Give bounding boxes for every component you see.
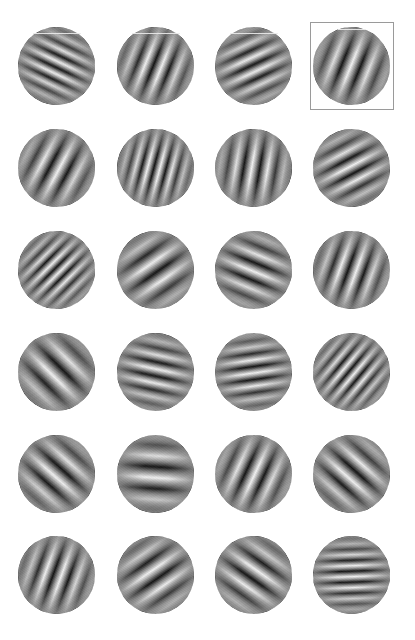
gabor-image	[18, 333, 95, 411]
gabor-patch-r1-c3[interactable]	[213, 25, 293, 105]
gabor-image	[117, 27, 194, 105]
gabor-image	[117, 231, 194, 309]
noise-overlay	[18, 333, 95, 411]
noise-overlay	[117, 333, 194, 411]
scan-artifact-line	[132, 33, 180, 34]
gabor-image	[117, 333, 194, 411]
noise-overlay	[313, 536, 390, 614]
noise-overlay	[313, 129, 390, 207]
noise-overlay	[117, 435, 194, 513]
noise-overlay	[313, 231, 390, 309]
gabor-patch-r4-c4[interactable]	[311, 331, 391, 411]
gabor-patch-r2-c3[interactable]	[213, 127, 293, 207]
gabor-patch-r4-c1[interactable]	[16, 331, 96, 411]
gabor-image	[18, 231, 95, 309]
noise-overlay	[215, 536, 292, 614]
gabor-image	[215, 27, 292, 105]
gabor-patch-r5-c1[interactable]	[16, 433, 96, 513]
noise-overlay	[18, 536, 95, 614]
gabor-patch-r1-c2[interactable]	[115, 25, 195, 105]
noise-overlay	[18, 129, 95, 207]
gabor-image	[18, 129, 95, 207]
noise-overlay	[117, 536, 194, 614]
noise-overlay	[117, 129, 194, 207]
noise-overlay	[117, 27, 194, 105]
scan-artifact-line	[33, 33, 81, 34]
gabor-patch-r6-c1[interactable]	[16, 534, 96, 614]
gabor-patch-r5-c2[interactable]	[115, 433, 195, 513]
noise-overlay	[215, 435, 292, 513]
gabor-patch-r5-c4[interactable]	[311, 433, 391, 513]
gabor-image	[215, 536, 292, 614]
gabor-image	[117, 129, 194, 207]
gabor-image	[313, 129, 390, 207]
gabor-patch-r2-c4[interactable]	[311, 127, 391, 207]
gabor-image	[215, 231, 292, 309]
noise-overlay	[215, 231, 292, 309]
noise-overlay	[117, 231, 194, 309]
gabor-image	[117, 536, 194, 614]
gabor-patch-r2-c2[interactable]	[115, 127, 195, 207]
gabor-patch-r3-c1[interactable]	[16, 229, 96, 309]
noise-overlay	[215, 27, 292, 105]
gabor-patch-r6-c2[interactable]	[115, 534, 195, 614]
gabor-image	[215, 333, 292, 411]
gabor-image	[117, 435, 194, 513]
gabor-patch-r3-c2[interactable]	[115, 229, 195, 309]
gabor-patch-r4-c3[interactable]	[213, 331, 293, 411]
gabor-image	[18, 536, 95, 614]
gabor-patch-r3-c3[interactable]	[213, 229, 293, 309]
gabor-patch-r2-c1[interactable]	[16, 127, 96, 207]
noise-overlay	[18, 435, 95, 513]
gabor-image	[313, 536, 390, 614]
gabor-patch-r4-c2[interactable]	[115, 331, 195, 411]
selection-box[interactable]	[310, 22, 394, 110]
noise-overlay	[18, 27, 95, 105]
gabor-patch-r6-c4[interactable]	[311, 534, 391, 614]
gabor-image	[313, 231, 390, 309]
noise-overlay	[313, 333, 390, 411]
noise-overlay	[313, 435, 390, 513]
gabor-patch-grid	[0, 0, 415, 640]
noise-overlay	[215, 129, 292, 207]
gabor-patch-r3-c4[interactable]	[311, 229, 391, 309]
gabor-image	[18, 27, 95, 105]
scan-artifact-line	[230, 33, 278, 34]
noise-overlay	[215, 333, 292, 411]
gabor-image	[215, 129, 292, 207]
gabor-image	[18, 435, 95, 513]
noise-overlay	[18, 231, 95, 309]
gabor-patch-r5-c3[interactable]	[213, 433, 293, 513]
gabor-image	[313, 435, 390, 513]
gabor-image	[313, 333, 390, 411]
gabor-patch-r6-c3[interactable]	[213, 534, 293, 614]
gabor-image	[215, 435, 292, 513]
gabor-patch-r1-c1[interactable]	[16, 25, 96, 105]
